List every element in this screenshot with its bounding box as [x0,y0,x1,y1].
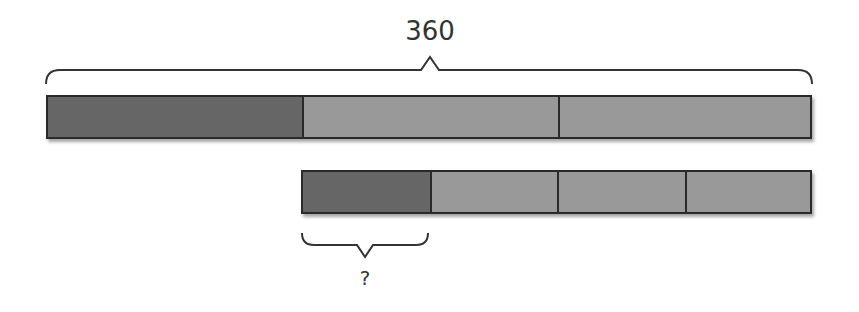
tape-diagram: 360 ? [0,0,859,312]
bottom-bar-segment-dark [303,172,430,212]
total-label: 360 [405,16,455,46]
bottom-bar-segment-light [430,172,557,212]
top-bar-segment-light [558,97,810,137]
top-bar [46,95,812,139]
bottom-bar-segment-light [685,172,810,212]
top-bar-segment-light [302,97,558,137]
bottom-bar-segment-light [557,172,685,212]
top-bar-segment-dark [48,97,302,137]
top-total-brace [46,57,812,84]
braces [0,0,859,312]
unknown-label: ? [360,266,371,290]
bottom-unknown-brace [302,233,428,257]
bottom-bar [301,170,812,214]
